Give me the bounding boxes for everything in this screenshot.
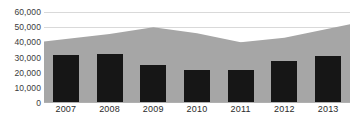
x-axis-tick-label: 2012: [263, 105, 307, 114]
x-axis-tick-label: 2008: [88, 105, 132, 114]
y-axis-tick-label: 0: [1, 99, 41, 108]
bar: [271, 61, 297, 103]
bar-series: [44, 12, 350, 103]
chart-container: 010,00020,00030,00040,00050,00060,000 20…: [0, 0, 355, 125]
bar: [228, 70, 254, 103]
x-axis-tick-label: 2010: [175, 105, 219, 114]
bar: [140, 65, 166, 103]
y-axis-tick-label: 30,000: [1, 54, 41, 63]
bar: [53, 55, 79, 103]
x-axis-tick-label: 2013: [306, 105, 350, 114]
y-axis: 010,00020,00030,00040,00050,00060,000: [0, 0, 41, 125]
y-axis-tick-label: 10,000: [1, 84, 41, 93]
y-axis-tick-label: 40,000: [1, 38, 41, 47]
x-axis-tick-label: 2007: [44, 105, 88, 114]
bar: [97, 54, 123, 103]
x-axis-tick-label: 2009: [131, 105, 175, 114]
bar: [184, 70, 210, 103]
axis-baseline: [44, 102, 350, 103]
x-axis: 2007200820092010201120122013: [44, 105, 350, 121]
y-axis-tick-label: 50,000: [1, 23, 41, 32]
y-axis-tick-label: 20,000: [1, 69, 41, 78]
plot-area: [44, 12, 350, 103]
y-axis-tick-label: 60,000: [1, 8, 41, 17]
bar: [315, 56, 341, 103]
x-axis-tick-label: 2011: [219, 105, 263, 114]
